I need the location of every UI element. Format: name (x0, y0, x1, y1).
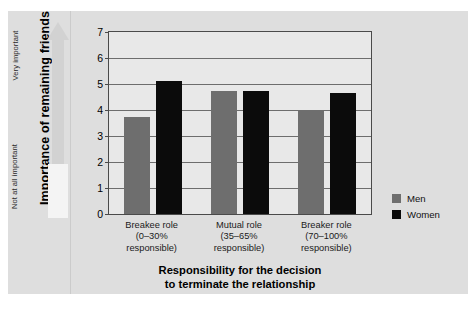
scale-label-high: Very important (11, 24, 20, 88)
x-axis-title-line1: Responsibility for the decision (90, 263, 390, 277)
bar-men-0 (124, 117, 150, 215)
plot-area: 01234567 (108, 31, 372, 215)
x-category-label-2-line1: Breaker role (271, 220, 381, 231)
vertical-divider (70, 11, 71, 294)
gridline-5 (109, 84, 371, 85)
bar-women-1 (243, 91, 269, 215)
scale-label-low: Not at all important (10, 137, 19, 217)
legend-swatch-men (392, 194, 401, 203)
legend-item-women: Women (392, 209, 440, 220)
bar-men-1 (211, 91, 237, 215)
y-tick-mark-3 (105, 136, 109, 137)
bar-men-2 (298, 110, 324, 214)
x-category-label-2-line2: (70–100% (271, 231, 381, 242)
legend: Men Women (392, 193, 440, 225)
legend-label-men: Men (407, 193, 426, 204)
y-tick-label-1: 1 (89, 182, 103, 194)
arrow-head (47, 22, 69, 40)
y-tick-mark-7 (105, 32, 109, 33)
y-tick-label-7: 7 (89, 26, 103, 38)
legend-swatch-women (392, 210, 401, 219)
legend-label-women: Women (407, 209, 440, 220)
y-tick-mark-6 (105, 58, 109, 59)
x-axis-title-line2: to terminate the relationship (90, 277, 390, 291)
bar-women-0 (156, 81, 182, 214)
y-tick-mark-5 (105, 84, 109, 85)
arrow-base-cap (48, 164, 68, 218)
gridline-6 (109, 58, 371, 59)
y-tick-label-0: 0 (89, 208, 103, 220)
importance-arrow-icon (47, 22, 69, 218)
y-tick-label-5: 5 (89, 78, 103, 90)
chart-figure: Importance of remaining friends Very imp… (0, 0, 476, 309)
legend-item-men: Men (392, 193, 440, 204)
y-tick-mark-1 (105, 188, 109, 189)
y-tick-label-2: 2 (89, 156, 103, 168)
bar-women-2 (330, 93, 356, 214)
y-tick-label-6: 6 (89, 52, 103, 64)
x-category-label-2-line3: responsible) (271, 243, 381, 254)
x-category-label-2: Breaker role (70–100% responsible) (271, 220, 381, 254)
y-tick-mark-2 (105, 162, 109, 163)
x-axis-title: Responsibility for the decision to termi… (90, 263, 390, 291)
y-tick-mark-0 (105, 214, 109, 215)
y-tick-mark-4 (105, 110, 109, 111)
y-tick-label-4: 4 (89, 104, 103, 116)
y-tick-label-3: 3 (89, 130, 103, 142)
